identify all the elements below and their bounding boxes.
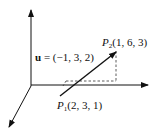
x-axis: [9, 86, 31, 127]
label-p1: P1(2, 3, 1): [57, 100, 102, 113]
label-p2: P2(1, 6, 3): [102, 37, 147, 50]
label-vector-u: u = (−1, 3, 2): [35, 52, 94, 63]
